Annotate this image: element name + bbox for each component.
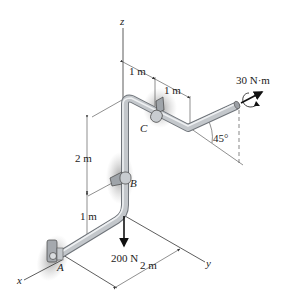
dim-label-top-second: 1 m [164, 84, 181, 96]
z-axis-label: z [119, 15, 125, 27]
base-ref-line [63, 255, 117, 288]
ref-line-top [92, 100, 122, 117]
moment-label: 30 N·m [236, 74, 270, 86]
dim-label-base: 2 m [140, 259, 157, 271]
pipe-assembly-diagram: z x y A B C 1 m 1 m 2 m 1 m 2 m 200 N 30… [0, 0, 282, 307]
point-a-label: A [56, 261, 64, 273]
dim-label-vertical-lower: 1 m [80, 210, 97, 222]
y-axis-label: y [205, 257, 211, 269]
point-b-label: B [130, 177, 137, 189]
x-axis-label: x [16, 274, 22, 286]
force-label: 200 N [111, 252, 138, 264]
angle-label: 45° [213, 132, 228, 144]
dim-label-vertical-upper: 2 m [75, 152, 92, 164]
point-c-label: C [140, 122, 148, 134]
couple-moment-arrow [241, 92, 262, 107]
dim-label-top-first: 1 m [129, 65, 146, 77]
